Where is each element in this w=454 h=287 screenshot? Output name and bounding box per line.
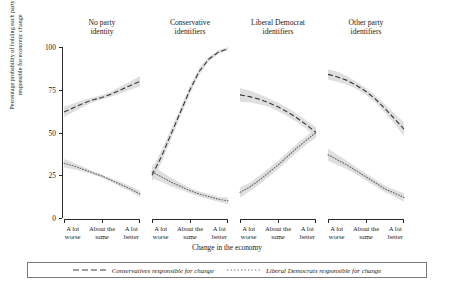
- y-axis-title: Percentage probability of holding each p…: [8, 0, 32, 145]
- x-axis-tick-mark: [328, 219, 329, 223]
- legend-label-libdems: Liberal Democrats responsible for change: [266, 267, 381, 274]
- x-axis-tick-mark: [139, 219, 140, 223]
- confidence-ribbon: [328, 149, 404, 202]
- x-axis-labels: A lotworseAbout thesameA lotbetter: [146, 225, 234, 241]
- confidence-ribbon: [240, 88, 316, 138]
- x-axis-category-label: About thesame: [87, 225, 116, 241]
- x-axis-category-label: A lotbetter: [117, 225, 146, 241]
- x-axis-tick-mark: [64, 219, 65, 223]
- panel-title-line2: identifiers: [170, 27, 210, 37]
- x-axis-category-label: About thesame: [175, 225, 204, 241]
- y-axis-title-line2: responsible for economic change: [16, 0, 24, 145]
- x-axis-title: Change in the economy: [0, 243, 454, 252]
- x-axis-category-label: A lotworse: [58, 225, 87, 241]
- x-axis-tick-mark: [227, 219, 228, 223]
- x-axis-category-label-line1: A lot: [381, 225, 410, 233]
- x-axis-tick-mark: [240, 219, 241, 223]
- panel-title: No partyidentity: [89, 18, 116, 37]
- x-axis-category-label: About thesame: [263, 225, 292, 241]
- x-axis-category-label-line1: A lot: [293, 225, 322, 233]
- x-axis-tick-mark: [102, 219, 103, 223]
- facet-panel: Liberal Democratidentifiers: [240, 47, 316, 218]
- x-axis-category-label-line2: worse: [146, 233, 175, 241]
- plot-area: [240, 47, 316, 218]
- x-axis-category-label: A lotbetter: [205, 225, 234, 241]
- x-axis-category-label: A lotworse: [322, 225, 351, 241]
- x-axis-category-label-line2: same: [351, 233, 380, 241]
- dashed-line-swatch-icon: [73, 267, 107, 273]
- y-axis-tick-label: 0: [52, 214, 56, 223]
- x-axis-tick-mark: [366, 219, 367, 223]
- dotted-line-swatch-icon: [227, 267, 261, 273]
- x-axis-tick-mark: [152, 219, 153, 223]
- x-axis: [240, 219, 316, 224]
- x-axis-category-label-line2: better: [381, 233, 410, 241]
- y-axis-tick-mark: [59, 47, 62, 48]
- x-axis-category-label: A lotworse: [234, 225, 263, 241]
- facet-panel: Other partyidentifiers: [328, 47, 404, 218]
- plot-area: [64, 47, 140, 218]
- x-axis-labels: A lotworseAbout thesameA lotbetter: [58, 225, 146, 241]
- x-axis-tick-mark: [190, 219, 191, 223]
- x-axis-category-label-line1: About the: [351, 225, 380, 233]
- x-axis-category-label-line2: better: [117, 233, 146, 241]
- panel-title-line1: Other party: [349, 18, 384, 28]
- panel-title-line2: identifiers: [349, 27, 384, 37]
- y-axis-tick-label: 75: [49, 85, 56, 94]
- x-axis: [64, 219, 140, 224]
- x-axis-category-label-line1: About the: [87, 225, 116, 233]
- y-axis-tick-label: 50: [49, 128, 56, 137]
- y-axis-title-line1: Percentage probability of holding each p…: [8, 0, 16, 145]
- confidence-ribbon: [64, 76, 140, 117]
- y-axis-tick-mark: [59, 218, 62, 219]
- legend-label-conservatives: Conservatives responsible for change: [112, 267, 214, 274]
- x-axis-category-label-line1: About the: [175, 225, 204, 233]
- x-axis-category-label-line1: A lot: [58, 225, 87, 233]
- x-axis-labels: A lotworseAbout thesameA lotbetter: [234, 225, 322, 241]
- panel-title-line2: identifiers: [251, 27, 305, 37]
- x-axis: [328, 219, 404, 224]
- chart-figure: Percentage probability of holding each p…: [0, 0, 454, 287]
- x-axis: [152, 219, 228, 224]
- confidence-ribbon: [64, 159, 140, 197]
- chart-legend: Conservatives responsible for change Lib…: [27, 262, 427, 278]
- x-axis-category-label: A lotbetter: [381, 225, 410, 241]
- x-axis-category-label-line2: worse: [234, 233, 263, 241]
- x-axis-category-label-line2: same: [175, 233, 204, 241]
- x-axis-tick-mark: [278, 219, 279, 223]
- x-axis-category-label: A lotworse: [146, 225, 175, 241]
- x-axis-category-label: A lotbetter: [293, 225, 322, 241]
- panel-title-line1: Conservative: [170, 18, 210, 28]
- panel-title: Conservativeidentifiers: [170, 18, 210, 37]
- y-axis-tick-label: 25: [49, 171, 56, 180]
- x-axis-category-label-line2: better: [205, 233, 234, 241]
- legend-item-conservatives: Conservatives responsible for change: [73, 267, 214, 274]
- y-axis-tick-mark: [59, 90, 62, 91]
- x-axis-category-label-line1: A lot: [146, 225, 175, 233]
- confidence-ribbon: [328, 69, 404, 136]
- panel-title: Liberal Democratidentifiers: [251, 18, 305, 37]
- x-axis-category-label-line1: A lot: [117, 225, 146, 233]
- x-axis-category-label: About thesame: [351, 225, 380, 241]
- facet-panel: Conservativeidentifiers: [152, 47, 228, 218]
- x-axis-category-label-line2: better: [293, 233, 322, 241]
- panel-title-line1: Liberal Democrat: [251, 18, 305, 28]
- panel-title-line1: No party: [89, 18, 116, 28]
- y-axis-line: [62, 47, 63, 218]
- x-axis-category-label-line1: A lot: [205, 225, 234, 233]
- x-axis-category-label-line1: About the: [263, 225, 292, 233]
- x-axis-category-label-line2: worse: [322, 233, 351, 241]
- x-axis-category-label-line1: A lot: [322, 225, 351, 233]
- facet-panel: No partyidentity: [64, 47, 140, 218]
- y-axis-tick-mark: [59, 175, 62, 176]
- panel-title: Other partyidentifiers: [349, 18, 384, 37]
- plot-area: [152, 47, 228, 218]
- confidence-ribbon: [240, 127, 316, 197]
- plot-area: [328, 47, 404, 218]
- x-axis-category-label-line1: A lot: [234, 225, 263, 233]
- confidence-ribbon: [152, 47, 228, 182]
- panel-title-line2: identity: [89, 27, 116, 37]
- x-axis-category-label-line2: same: [263, 233, 292, 241]
- x-axis-tick-mark: [315, 219, 316, 223]
- x-axis-tick-mark: [403, 219, 404, 223]
